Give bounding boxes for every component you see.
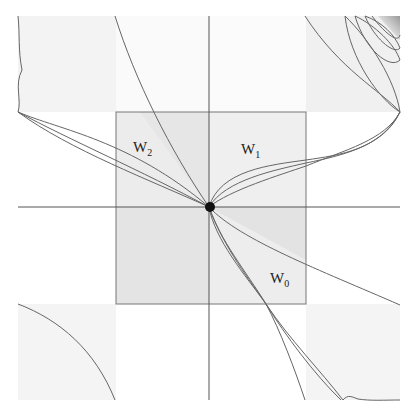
fixed-point [205,202,215,212]
dynamics-diagram: W2 W1 W0 [0,0,417,418]
